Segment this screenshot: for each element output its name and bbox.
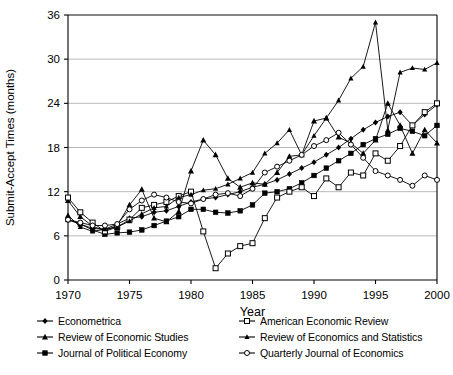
series-line bbox=[68, 103, 437, 230]
legend-item: Journal of Political Economy bbox=[36, 345, 188, 360]
data-point bbox=[361, 173, 366, 178]
x-tick-label: 2000 bbox=[424, 289, 450, 301]
data-point bbox=[213, 266, 218, 271]
data-point bbox=[299, 185, 304, 190]
series-line bbox=[68, 105, 437, 229]
data-point bbox=[336, 130, 341, 135]
data-point bbox=[373, 136, 378, 141]
legend-marker-review-of-economics-and-statistics bbox=[238, 330, 260, 344]
data-point bbox=[225, 175, 231, 181]
data-point bbox=[324, 138, 329, 143]
y-tick-label: 30 bbox=[47, 53, 60, 65]
data-point bbox=[115, 222, 120, 227]
data-point bbox=[250, 241, 255, 246]
data-point bbox=[127, 230, 132, 235]
data-point bbox=[361, 64, 366, 69]
legend-marker-american-economic-review bbox=[238, 314, 260, 328]
x-tick-label: 1990 bbox=[301, 289, 327, 301]
data-point bbox=[385, 158, 390, 163]
data-point bbox=[42, 318, 47, 324]
data-point bbox=[398, 126, 403, 131]
series-econometrica bbox=[65, 102, 439, 232]
data-point bbox=[250, 203, 255, 208]
y-tick-label: 6 bbox=[54, 230, 60, 242]
legend-marker-review-of-economic-studies bbox=[36, 330, 58, 344]
x-tick-label: 1985 bbox=[240, 289, 266, 301]
data-point bbox=[312, 173, 317, 178]
data-point bbox=[422, 173, 427, 178]
data-point bbox=[409, 150, 415, 156]
data-point bbox=[213, 192, 218, 197]
data-point bbox=[176, 214, 181, 219]
data-point bbox=[176, 208, 182, 214]
data-point bbox=[262, 216, 267, 221]
chart-legend: Econometrica Review of Economic Studies … bbox=[0, 313, 453, 373]
data-point bbox=[410, 65, 415, 70]
data-point bbox=[176, 199, 181, 204]
legend-label-quarterly-journal-of-economics: Quarterly Journal of Economics bbox=[260, 346, 403, 360]
data-point bbox=[311, 159, 316, 165]
series-review-of-economic-studies bbox=[65, 100, 440, 233]
data-point bbox=[65, 212, 70, 217]
data-point bbox=[66, 217, 71, 222]
data-point bbox=[151, 215, 157, 221]
data-point bbox=[287, 127, 292, 132]
data-point bbox=[435, 177, 440, 182]
data-point bbox=[312, 194, 317, 199]
data-point bbox=[348, 142, 353, 147]
data-point bbox=[434, 60, 439, 65]
data-point bbox=[287, 171, 292, 177]
data-point bbox=[139, 186, 145, 192]
data-point bbox=[336, 185, 341, 190]
data-point bbox=[213, 210, 218, 215]
data-point bbox=[410, 183, 415, 188]
data-point bbox=[90, 223, 95, 228]
data-point bbox=[287, 158, 292, 163]
legend-label-econometrica: Econometrica bbox=[58, 314, 121, 328]
data-point bbox=[226, 211, 231, 216]
series-review-of-economics-and-statistics bbox=[65, 20, 439, 234]
data-point bbox=[238, 209, 243, 214]
data-point bbox=[164, 208, 169, 214]
data-point bbox=[225, 191, 230, 196]
data-point bbox=[115, 231, 120, 236]
data-point bbox=[102, 223, 107, 228]
data-point bbox=[238, 194, 243, 199]
legend-symbol bbox=[238, 314, 260, 328]
legend-label-review-of-economic-studies: Review of Economic Studies bbox=[58, 330, 188, 344]
data-point bbox=[43, 350, 48, 355]
data-point bbox=[201, 197, 206, 202]
data-point bbox=[422, 133, 427, 138]
legend-marker-quarterly-journal-of-economics bbox=[238, 346, 260, 360]
y-tick-label: 12 bbox=[47, 186, 60, 198]
data-point bbox=[410, 129, 415, 134]
legend-item: Quarterly Journal of Economics bbox=[238, 345, 422, 360]
legend-symbol bbox=[36, 314, 58, 328]
x-tick-label: 1980 bbox=[178, 289, 204, 301]
data-point bbox=[245, 350, 250, 355]
y-tick-label: 24 bbox=[47, 97, 60, 109]
data-point bbox=[140, 228, 145, 233]
data-point bbox=[275, 195, 280, 200]
data-point bbox=[398, 177, 403, 182]
data-point bbox=[139, 211, 144, 216]
data-point bbox=[78, 210, 83, 215]
data-point bbox=[324, 152, 329, 158]
legend-marker-journal-of-political-economy bbox=[36, 346, 58, 360]
data-point bbox=[250, 186, 255, 191]
y-tick-label: 36 bbox=[47, 9, 60, 21]
data-point bbox=[66, 195, 71, 200]
data-point bbox=[188, 168, 194, 174]
data-point bbox=[324, 176, 329, 181]
data-point bbox=[386, 132, 391, 137]
data-point bbox=[422, 110, 427, 115]
data-point bbox=[238, 176, 243, 181]
data-point bbox=[139, 198, 144, 203]
x-tick-label: 1970 bbox=[55, 289, 81, 301]
data-point bbox=[152, 223, 157, 228]
data-point bbox=[373, 169, 378, 174]
data-point bbox=[262, 170, 267, 175]
data-point bbox=[312, 144, 317, 149]
data-point bbox=[152, 192, 157, 197]
legend-symbol bbox=[238, 330, 260, 344]
